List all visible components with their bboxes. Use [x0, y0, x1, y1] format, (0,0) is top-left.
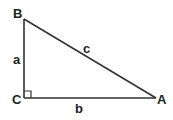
right-angle-marker — [24, 91, 31, 98]
side-c — [24, 19, 156, 98]
side-label-a: a — [13, 52, 21, 67]
vertex-label-b: B — [13, 6, 22, 21]
triangle-diagram: B C A a c b — [0, 0, 173, 120]
vertex-label-a: A — [157, 92, 167, 107]
vertex-label-c: C — [12, 92, 22, 107]
triangle-svg: B C A a c b — [0, 0, 173, 120]
side-label-c: c — [83, 41, 90, 56]
side-label-b: b — [75, 101, 83, 116]
